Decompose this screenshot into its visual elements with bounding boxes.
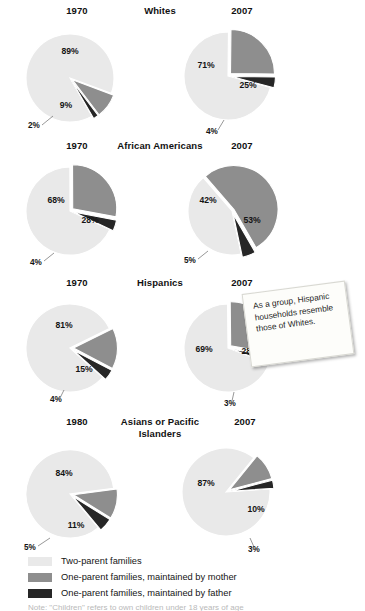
legend-item-two-parent: Two-parent families xyxy=(28,554,328,569)
row-group-name: Whites xyxy=(105,5,215,17)
swatch-two-parent-icon xyxy=(28,557,52,566)
pie-slice-mother xyxy=(231,30,275,74)
legend-item-father: One-parent families, maintained by fathe… xyxy=(28,586,328,601)
callout-note: As a group, Hispanic households resemble… xyxy=(242,281,355,368)
pie-value-label-two-parent: 89% xyxy=(61,46,79,56)
swatch-father-icon xyxy=(28,589,52,598)
pie-value-label-mother: 9% xyxy=(60,100,73,110)
pie-chart-whites-1970: 89%9%2% xyxy=(20,26,140,138)
pie-chart-asians-1980: 84%11%5% xyxy=(20,444,140,556)
pie-value-label-two-parent: 69% xyxy=(195,344,213,354)
row-year-right: 2007 xyxy=(215,416,275,428)
swatch-mother-icon xyxy=(28,573,52,582)
pie-value-label-two-parent: 87% xyxy=(197,478,215,488)
pie-value-label-two-parent: 42% xyxy=(199,195,217,205)
pie-chart-asians-2007: 87%10%3% xyxy=(180,444,300,556)
pie-value-label-two-parent: 68% xyxy=(47,195,65,205)
pie-value-label-mother: 10% xyxy=(247,504,265,514)
pie-value-label-father: 2% xyxy=(28,121,41,130)
pie-value-label-mother: 28% xyxy=(81,215,99,225)
pie-value-label-father: 3% xyxy=(224,399,237,408)
pie-slice-mother xyxy=(73,165,117,217)
pie-value-label-father: 4% xyxy=(206,127,219,136)
row-year-left: 1970 xyxy=(47,140,107,152)
pie-value-label-father: 3% xyxy=(248,545,261,554)
leader-line-father xyxy=(218,120,224,130)
pie-value-label-two-parent: 84% xyxy=(55,468,73,478)
pie-value-label-mother: 15% xyxy=(75,364,93,374)
pie-value-label-mother: 11% xyxy=(68,520,85,530)
pie-value-label-father: 5% xyxy=(24,543,37,552)
footer-note-text: Note: "Children" refers to own children … xyxy=(28,603,338,611)
legend-label: Two-parent families xyxy=(61,556,142,567)
legend-item-mother: One-parent families, maintained by mothe… xyxy=(28,570,328,585)
pie-value-label-father: 4% xyxy=(30,258,43,267)
row-group-name: Hispanics xyxy=(105,277,215,289)
leader-line-father xyxy=(198,251,208,259)
row-group-name: Asians or Pacific Islanders xyxy=(100,416,220,439)
footer-note: Note: "Children" refers to own children … xyxy=(28,603,338,611)
pie-value-label-two-parent: 71% xyxy=(197,60,215,70)
pie-chart-african-americans-1970: 68%28%4% xyxy=(20,161,140,273)
leader-line-father xyxy=(44,253,54,261)
callout-note-text: As a group, Hispanic households resemble… xyxy=(253,290,342,336)
pie-chart-whites-2007: 71%25%4% xyxy=(180,26,300,138)
row-year-right: 2007 xyxy=(212,140,272,152)
pie-value-label-two-parent: 81% xyxy=(55,320,73,330)
chart-row-african-americans: 1970 African Americans 2007 68%28%4% 42%… xyxy=(0,139,365,270)
row-year-right: 2007 xyxy=(212,5,272,17)
row-year-right: 2007 xyxy=(212,277,272,289)
row-year-left: 1970 xyxy=(47,5,107,17)
row-year-left: 1980 xyxy=(47,416,107,428)
row-year-left: 1970 xyxy=(47,277,107,289)
pie-chart-african-americans-2007: 42%53%5% xyxy=(180,161,300,273)
pie-chart-hispanics-1970: 81%15%4% xyxy=(20,298,140,410)
pie-value-label-father: 4% xyxy=(50,395,63,404)
pie-value-label-father: 5% xyxy=(184,256,197,265)
pie-value-label-mother: 25% xyxy=(239,80,257,90)
legend: Two-parent families One-parent families,… xyxy=(28,554,328,602)
row-group-name: African Americans xyxy=(105,140,215,152)
leader-line-father xyxy=(42,116,53,125)
chart-row-whites: 1970 Whites 2007 89%9%2% 71%25%4% xyxy=(0,4,365,135)
legend-label: One-parent families, maintained by fathe… xyxy=(61,588,232,599)
row-header: 1980 Asians or Pacific Islanders 2007 xyxy=(0,414,365,444)
legend-label: One-parent families, maintained by mothe… xyxy=(61,572,237,583)
pie-value-label-mother: 53% xyxy=(243,215,261,225)
leader-line-father xyxy=(38,538,50,546)
chart-row-asians-pacific-islanders: 1980 Asians or Pacific Islanders 2007 84… xyxy=(0,414,365,545)
